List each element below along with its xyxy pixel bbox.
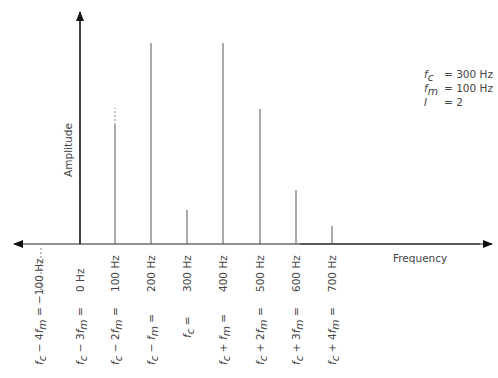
legend-value: = 2 bbox=[444, 96, 463, 108]
tick-sideband-formula: fc − fm = bbox=[145, 314, 160, 365]
tick-sideband-formula: fc + 4fm = bbox=[326, 307, 341, 365]
negative-sideband-label: fc − 4fm = −100 Hz bbox=[33, 258, 48, 365]
tick-frequency-label: 100 Hz bbox=[109, 255, 121, 292]
legend-symbol: fm bbox=[424, 82, 438, 97]
tick-sideband-formula: fc + 3fm = bbox=[290, 307, 305, 365]
legend-symbol: I bbox=[424, 96, 427, 108]
legend-symbol: fc bbox=[424, 68, 434, 83]
tick-frequency-label: 0 Hz bbox=[74, 268, 86, 292]
tick-frequency-label: 500 Hz bbox=[254, 255, 266, 292]
tick-frequency-label: 700 Hz bbox=[326, 255, 338, 292]
tick-sideband-formula: fc = bbox=[181, 316, 196, 338]
legend-value: = 300 Hz bbox=[444, 68, 493, 80]
tick-frequency-label: 600 Hz bbox=[290, 255, 302, 292]
parameter-legend: fc= 300 Hzfm= 100 HzI= 2 bbox=[424, 68, 493, 108]
y-axis-label: Amplitude bbox=[62, 123, 74, 177]
tick-frequency-label: 400 Hz bbox=[217, 255, 229, 292]
tick-frequency-label: 200 Hz bbox=[145, 255, 157, 292]
legend-value: = 100 Hz bbox=[444, 82, 493, 94]
spectral-lines bbox=[115, 43, 332, 244]
tick-sideband-formula: fc + fm = bbox=[217, 314, 232, 365]
tick-sideband-formula: fc − 3fm = bbox=[74, 307, 89, 365]
fm-spectrum-chart: Amplitude Frequency 0 Hzfc − 3fm =100 Hz… bbox=[0, 0, 498, 378]
tick-sideband-formula: fc + 2fm = bbox=[254, 307, 269, 365]
tick-sideband-formula: fc − 2fm = bbox=[109, 307, 124, 365]
x-axis-label: Frequency bbox=[393, 252, 447, 264]
tick-frequency-label: 300 Hz bbox=[181, 255, 193, 292]
tick-labels: 0 Hzfc − 3fm =100 Hzfc − 2fm =200 Hzfc −… bbox=[74, 255, 341, 365]
